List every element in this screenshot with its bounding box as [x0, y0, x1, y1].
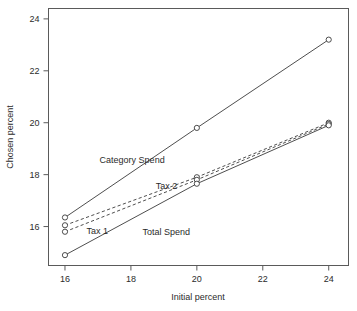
y-tick-label: 22 — [29, 66, 39, 76]
x-tick-label: 24 — [324, 274, 334, 284]
y-axis-title: Chosen percent — [5, 105, 15, 169]
y-tick-label: 24 — [29, 14, 39, 24]
x-axis-title: Initial percent — [171, 292, 225, 302]
y-tick-label: 16 — [29, 222, 39, 232]
y-tick-label: 20 — [29, 118, 39, 128]
x-tick-label: 22 — [258, 274, 268, 284]
series-annotation: Tax 1 — [86, 226, 108, 236]
x-tick-label: 20 — [192, 274, 202, 284]
line-chart: 1618202224 1618202224 Category SpendTax … — [0, 0, 357, 311]
data-point — [62, 229, 67, 234]
chart-figure: 1618202224 1618202224 Category SpendTax … — [0, 0, 357, 311]
data-point — [194, 181, 199, 186]
series-annotation: Total Spend — [142, 227, 190, 237]
series-annotation: Tax 2 — [156, 181, 178, 191]
x-tick-label: 18 — [126, 274, 136, 284]
data-point — [326, 37, 331, 42]
data-point — [194, 125, 199, 130]
data-point — [62, 215, 67, 220]
data-point — [62, 253, 67, 258]
data-point — [62, 223, 67, 228]
x-tick-label: 16 — [60, 274, 70, 284]
chart-background — [0, 0, 357, 311]
y-tick-label: 18 — [29, 170, 39, 180]
series-annotation: Category Spend — [100, 155, 165, 165]
data-point — [326, 123, 331, 128]
